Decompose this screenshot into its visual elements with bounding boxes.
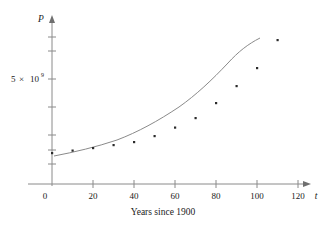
data-point	[154, 135, 156, 137]
data-point	[133, 141, 135, 143]
x-label-60: 60	[171, 191, 181, 201]
chart-background	[0, 0, 325, 230]
y-label-base: 10	[30, 74, 40, 84]
y-axis-label: P	[37, 14, 44, 24]
chart-caption: Years since 1900	[131, 207, 196, 217]
y-label-times-icon: ×	[19, 74, 24, 84]
data-point	[51, 152, 53, 154]
data-point	[256, 67, 258, 69]
x-label-0: 0	[43, 191, 48, 201]
x-label-40: 40	[130, 191, 140, 201]
y-label-exponent: 9	[41, 72, 44, 78]
y-label-mantissa: 5	[11, 74, 16, 84]
data-point	[236, 85, 238, 87]
data-point	[113, 144, 115, 146]
data-point	[195, 117, 197, 119]
x-label-100: 100	[250, 191, 264, 201]
x-label-20: 20	[89, 191, 99, 201]
data-point	[277, 39, 279, 41]
x-axis-label: t	[315, 191, 318, 201]
data-point	[215, 102, 217, 104]
population-growth-chart: P 5 × 10 9 0 20 40 60 80 100 120	[0, 0, 325, 230]
data-point	[174, 127, 176, 129]
chart-canvas: P 5 × 10 9 0 20 40 60 80 100 120	[0, 0, 325, 230]
x-label-80: 80	[212, 191, 222, 201]
data-point	[72, 150, 74, 152]
x-label-120: 120	[291, 191, 305, 201]
data-point	[92, 147, 94, 149]
